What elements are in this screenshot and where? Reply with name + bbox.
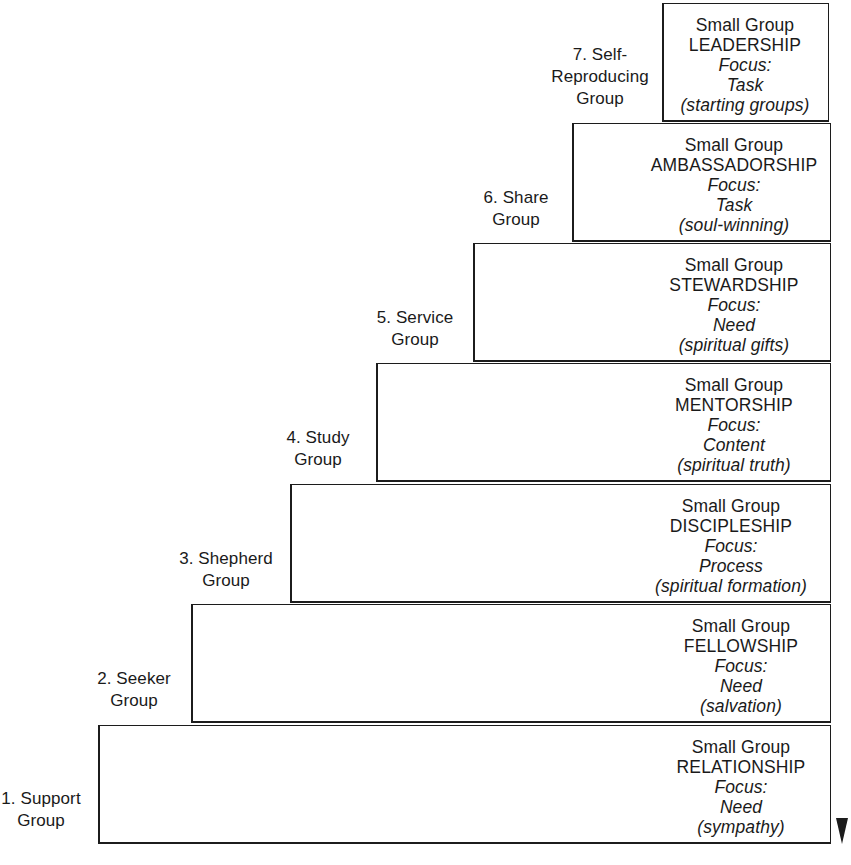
step-label-line-7b: Reproducing	[544, 66, 656, 88]
step-label-line-1b: Group	[0, 810, 90, 832]
step-label-line-6b: Group	[468, 209, 564, 231]
step-parenthetical-1: (sympathy)	[652, 818, 830, 838]
step-label-5: 5. Service Group	[365, 307, 465, 351]
step-parenthetical-6: (soul-winning)	[638, 216, 830, 236]
step-label-line-3a: 3. Shepherd	[170, 548, 282, 570]
step-content-6: Small Group AMBASSADORSHIP Focus: Task (…	[638, 136, 830, 236]
step-prefix-7: Small Group	[656, 16, 834, 36]
step-focus-value-6: Task	[638, 196, 830, 216]
step-content-2: Small Group FELLOWSHIP Focus: Need (salv…	[652, 617, 830, 717]
step-parenthetical-4: (spiritual truth)	[638, 456, 830, 476]
step-focus-label-5: Focus:	[638, 296, 830, 316]
step-label-line-3b: Group	[170, 570, 282, 592]
step-prefix-3: Small Group	[631, 497, 831, 517]
step-focus-label-7: Focus:	[656, 56, 834, 76]
step-label-line-7c: Group	[544, 88, 656, 110]
step-focus-value-5: Need	[638, 316, 830, 336]
step-label-7: 7. Self- Reproducing Group	[544, 44, 656, 110]
step-label-line-1a: 1. Support	[0, 788, 90, 810]
step-label-3: 3. Shepherd Group	[170, 548, 282, 592]
step-label-line-2a: 2. Seeker	[85, 668, 183, 690]
step-focus-value-3: Process	[631, 557, 831, 577]
step-title-4: MENTORSHIP	[638, 396, 830, 416]
step-focus-label-4: Focus:	[638, 416, 830, 436]
step-label-line-7a: 7. Self-	[544, 44, 656, 66]
step-parenthetical-7: (starting groups)	[656, 96, 834, 116]
step-title-1: RELATIONSHIP	[652, 758, 830, 778]
step-focus-label-3: Focus:	[631, 537, 831, 557]
step-content-3: Small Group DISCIPLESHIP Focus: Process …	[631, 497, 831, 597]
step-content-5: Small Group STEWARDSHIP Focus: Need (spi…	[638, 256, 830, 356]
step-box-3: Small Group DISCIPLESHIP Focus: Process …	[290, 484, 831, 603]
step-content-7: Small Group LEADERSHIP Focus: Task (star…	[656, 16, 834, 116]
step-label-line-5a: 5. Service	[365, 307, 465, 329]
step-box-5: Small Group STEWARDSHIP Focus: Need (spi…	[473, 243, 831, 362]
step-content-1: Small Group RELATIONSHIP Focus: Need (sy…	[652, 738, 830, 838]
step-focus-value-1: Need	[652, 798, 830, 818]
step-title-5: STEWARDSHIP	[638, 276, 830, 296]
step-prefix-5: Small Group	[638, 256, 830, 276]
step-label-2: 2. Seeker Group	[85, 668, 183, 712]
step-box-4: Small Group MENTORSHIP Focus: Content (s…	[376, 363, 831, 482]
step-parenthetical-3: (spiritual formation)	[631, 577, 831, 597]
step-focus-value-2: Need	[652, 677, 830, 697]
step-content-4: Small Group MENTORSHIP Focus: Content (s…	[638, 376, 830, 476]
step-title-6: AMBASSADORSHIP	[638, 156, 830, 176]
step-box-2: Small Group FELLOWSHIP Focus: Need (salv…	[191, 604, 831, 723]
step-label-line-4b: Group	[268, 449, 368, 471]
step-prefix-6: Small Group	[638, 136, 830, 156]
step-focus-value-7: Task	[656, 76, 834, 96]
step-label-6: 6. Share Group	[468, 187, 564, 231]
step-label-line-4a: 4. Study	[268, 427, 368, 449]
staircase-diagram: Small Group RELATIONSHIP Focus: Need (sy…	[0, 0, 851, 865]
step-label-line-2b: Group	[85, 690, 183, 712]
step-title-2: FELLOWSHIP	[652, 637, 830, 657]
step-focus-label-6: Focus:	[638, 176, 830, 196]
step-parenthetical-5: (spiritual gifts)	[638, 336, 830, 356]
step-title-3: DISCIPLESHIP	[631, 517, 831, 537]
step-parenthetical-2: (salvation)	[652, 697, 830, 717]
step-prefix-2: Small Group	[652, 617, 830, 637]
page-corner-mark-icon	[836, 818, 848, 844]
step-box-7: Small Group LEADERSHIP Focus: Task (star…	[662, 3, 829, 122]
step-box-1: Small Group RELATIONSHIP Focus: Need (sy…	[98, 725, 831, 844]
step-label-line-5b: Group	[365, 329, 465, 351]
step-focus-value-4: Content	[638, 436, 830, 456]
step-box-6: Small Group AMBASSADORSHIP Focus: Task (…	[572, 123, 831, 242]
step-label-1: 1. Support Group	[0, 788, 90, 832]
step-prefix-1: Small Group	[652, 738, 830, 758]
step-label-line-6a: 6. Share	[468, 187, 564, 209]
step-focus-label-1: Focus:	[652, 778, 830, 798]
step-prefix-4: Small Group	[638, 376, 830, 396]
step-title-7: LEADERSHIP	[656, 36, 834, 56]
step-focus-label-2: Focus:	[652, 657, 830, 677]
step-label-4: 4. Study Group	[268, 427, 368, 471]
